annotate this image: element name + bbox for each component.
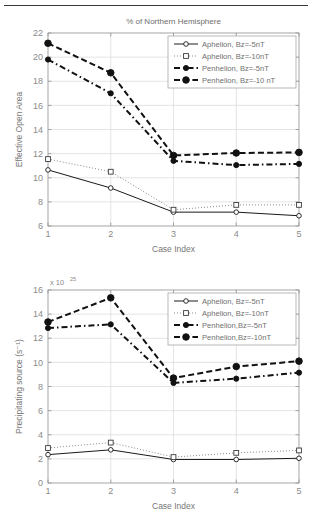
y-tick-label: 6 (38, 406, 43, 416)
y-tick-label: 0 (38, 478, 43, 488)
x-axis-label: Case Index (152, 244, 196, 254)
y-axis-label: Effective Open Area (14, 92, 24, 168)
data-point-marker (108, 448, 113, 453)
data-point-marker (171, 207, 176, 212)
legend-label: Penhelion, Bz=-10 nT (202, 76, 276, 85)
chart-effective-open-area: % of Northern Hemisphere6810121416182022… (0, 8, 312, 265)
data-point-marker (183, 334, 190, 341)
data-point-marker (107, 70, 114, 77)
x-tick-label: 4 (234, 486, 239, 496)
data-point-marker (297, 448, 302, 453)
y-tick-label: 12 (33, 333, 43, 343)
y-tick-label: 6 (38, 221, 43, 231)
y-tick-label: 14 (33, 309, 43, 319)
data-point-marker (183, 77, 190, 84)
data-point-marker (297, 202, 302, 207)
y-tick-label: 4 (38, 430, 43, 440)
chart-title: % of Northern Hemisphere (126, 17, 221, 26)
legend-label: Aphelion, Bz=-10nT (202, 309, 269, 318)
data-point-marker (170, 152, 177, 159)
y-tick-label: 10 (33, 358, 43, 368)
data-point-marker (297, 213, 302, 218)
x-tick-label: 5 (296, 486, 301, 496)
precipitating-source-plot: x 1025024681012141612345Case IndexPrecip… (0, 268, 312, 531)
data-point-marker (46, 452, 51, 457)
data-point-marker (107, 295, 114, 302)
data-point-marker (183, 322, 188, 327)
data-point-marker (234, 450, 239, 455)
x-tick-label: 1 (45, 486, 50, 496)
legend-label: Aphelion, Bz=-5nT (202, 40, 265, 49)
data-point-marker (108, 186, 113, 191)
data-point-marker (45, 40, 52, 47)
y-tick-label: 8 (38, 382, 43, 392)
data-point-marker (184, 54, 189, 59)
data-point-marker (170, 375, 177, 382)
data-point-marker (296, 358, 303, 365)
data-point-marker (234, 162, 239, 167)
x-axis-label: Case Index (152, 501, 196, 511)
data-point-marker (108, 169, 113, 174)
x-tick-label: 4 (234, 229, 239, 239)
data-point-marker (108, 322, 113, 327)
y-tick-label: 2 (38, 454, 43, 464)
data-point-marker (234, 376, 239, 381)
legend: Aphelion, Bz=-5nTAphelion, Bz=-10nTPenhe… (168, 36, 296, 88)
data-point-marker (296, 161, 301, 166)
y-tick-label: 16 (33, 101, 43, 111)
data-point-marker (108, 440, 113, 445)
data-point-marker (45, 57, 50, 62)
top-divider (4, 5, 308, 6)
x-tick-label: 5 (296, 229, 301, 239)
data-point-marker (233, 150, 240, 157)
legend-label: Aphelion, Bz=-10nT (202, 52, 269, 61)
y-tick-label: 14 (33, 125, 43, 135)
legend-label: Penhelion, Bz=-5nT (202, 64, 269, 73)
y-tick-label: 18 (33, 76, 43, 86)
data-point-marker (171, 455, 176, 460)
legend-label: Aphelion, Bz=-5nT (202, 297, 265, 306)
data-point-marker (183, 65, 188, 70)
data-point-marker (296, 149, 303, 156)
data-point-marker (184, 299, 189, 304)
x-tick-label: 2 (108, 486, 113, 496)
x-tick-label: 3 (171, 229, 176, 239)
x-tick-label: 1 (45, 229, 50, 239)
y-tick-label: 16 (33, 285, 43, 295)
y-axis-label: Precipitating source (s⁻¹) (14, 339, 24, 434)
data-point-marker (234, 457, 239, 462)
legend-label: Penhelion,Bz=-10nT (202, 333, 271, 342)
data-point-marker (184, 311, 189, 316)
svg-text:25: 25 (70, 276, 76, 282)
y-tick-label: 8 (38, 197, 43, 207)
data-point-marker (46, 446, 51, 451)
data-point-marker (297, 456, 302, 461)
data-point-marker (234, 210, 239, 215)
data-point-marker (108, 91, 113, 96)
data-point-marker (45, 319, 52, 326)
data-point-marker (45, 325, 50, 330)
data-point-marker (46, 168, 51, 173)
data-point-marker (234, 202, 239, 207)
x-tick-label: 2 (108, 229, 113, 239)
data-point-marker (46, 157, 51, 162)
svg-text:x 10: x 10 (50, 278, 64, 287)
axis-exponent: x 1025 (50, 276, 76, 287)
x-tick-label: 3 (171, 486, 176, 496)
chart-precipitating-source: x 1025024681012141612345Case IndexPrecip… (0, 268, 312, 531)
y-tick-label: 10 (33, 173, 43, 183)
data-point-marker (296, 370, 301, 375)
y-tick-label: 20 (33, 52, 43, 62)
legend-label: Penhelion,Bz=-5nT (202, 321, 267, 330)
data-point-marker (233, 363, 240, 370)
effective-open-area-plot: % of Northern Hemisphere6810121416182022… (0, 8, 312, 265)
y-tick-label: 12 (33, 149, 43, 159)
data-point-marker (184, 42, 189, 47)
y-tick-label: 22 (33, 28, 43, 38)
legend: Aphelion, Bz=-5nTAphelion, Bz=-10nTPenhe… (168, 293, 296, 345)
